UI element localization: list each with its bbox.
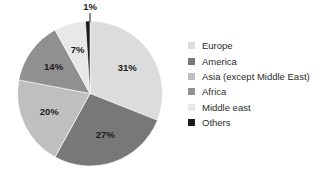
legend-swatch-icon-europe [188, 42, 195, 49]
legend-label-africa: Africa [202, 86, 226, 97]
legend-label-middle-east: Middle east [202, 102, 251, 113]
pie-slice-value-label: 20% [40, 106, 60, 117]
pie-slice-value-label: 14% [44, 61, 64, 72]
pie-slice-value-label: 27% [96, 129, 116, 140]
chart-legend: Europe America Asia (except Middle East)… [188, 38, 324, 130]
legend-item-europe[interactable]: Europe [188, 38, 324, 53]
pie-chart-figure: 31%27%20%14%7% 1% Europe America Asia (e… [0, 0, 324, 174]
legend-swatch-icon-africa [188, 88, 195, 95]
pie-chart-plot-area: 31%27%20%14%7% 1% [0, 0, 180, 174]
others-callout-label: 1% [83, 1, 97, 12]
legend-item-asia[interactable]: Asia (except Middle East) [188, 69, 324, 84]
legend-item-others[interactable]: Others [188, 115, 324, 130]
legend-item-africa[interactable]: Africa [188, 84, 324, 99]
legend-item-middle-east[interactable]: Middle east [188, 100, 324, 115]
legend-swatch-icon-others [188, 119, 195, 126]
legend-label-europe: Europe [202, 40, 233, 51]
legend-item-america[interactable]: America [188, 53, 324, 68]
legend-label-others: Others [202, 117, 231, 128]
pie-chart-svg: 31%27%20%14%7% 1% [0, 0, 180, 174]
pie-slice-value-label: 31% [118, 62, 138, 73]
legend-label-america: America [202, 56, 237, 67]
legend-swatch-icon-middle-east [188, 104, 195, 111]
legend-swatch-icon-asia [188, 73, 195, 80]
pie-slice-group [17, 21, 162, 166]
legend-label-asia: Asia (except Middle East) [202, 71, 310, 82]
legend-swatch-icon-america [188, 58, 195, 65]
pie-slice-value-label: 7% [71, 44, 85, 55]
